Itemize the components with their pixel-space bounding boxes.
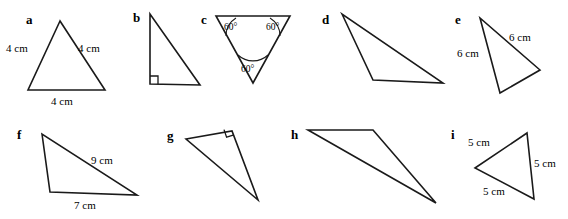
- triangle-shape-e: [480, 18, 540, 93]
- side-length-label-a-1: 4 cm: [6, 42, 28, 54]
- item-letter-h: h: [291, 127, 299, 142]
- right-angle-mark-b: [150, 76, 158, 84]
- side-length-label-f-2: 7 cm: [74, 199, 96, 211]
- item-letter-g: g: [167, 128, 174, 143]
- triangles-worksheet: 4 cm4 cm4 cmab60°60°60°cd6 cm6 cme9 cm7 …: [0, 0, 568, 219]
- triangle-item-h: h: [291, 127, 436, 203]
- triangle-item-e: 6 cm6 cme: [455, 12, 540, 93]
- triangle-shape-h: [308, 130, 436, 203]
- side-length-label-i-1: 5 cm: [468, 136, 490, 148]
- triangle-item-c: 60°60°60°c: [201, 12, 290, 83]
- triangle-item-i: 5 cm5 cm5 cmi: [451, 127, 556, 199]
- angle-label-c-2: 60°: [266, 22, 280, 32]
- triangle-shape-f: [42, 134, 137, 195]
- side-length-label-i-3: 5 cm: [483, 185, 505, 197]
- item-letter-f: f: [17, 127, 22, 142]
- angle-label-c-1: 60°: [224, 22, 238, 32]
- side-length-label-e-2: 6 cm: [509, 31, 531, 43]
- triangles-figure: 4 cm4 cm4 cmab60°60°60°cd6 cm6 cme9 cm7 …: [0, 0, 568, 219]
- angle-arc-c-3: [238, 55, 268, 61]
- triangle-item-b: b: [133, 10, 200, 85]
- triangle-shape-a: [28, 21, 105, 90]
- triangle-shape-d: [342, 14, 443, 83]
- item-letter-c: c: [201, 12, 207, 27]
- triangle-item-a: 4 cm4 cm4 cma: [6, 12, 105, 107]
- item-letter-e: e: [455, 12, 461, 27]
- side-length-label-a-3: 4 cm: [51, 95, 73, 107]
- item-letter-d: d: [322, 12, 330, 27]
- angle-label-c-3: 60°: [241, 64, 255, 74]
- triangle-item-f: 9 cm7 cmf: [17, 127, 137, 211]
- side-length-label-e-1: 6 cm: [457, 47, 479, 59]
- side-length-label-i-2: 5 cm: [534, 157, 556, 169]
- side-length-label-f-1: 9 cm: [91, 154, 113, 166]
- triangle-item-g: g: [167, 128, 258, 200]
- side-length-label-a-2: 4 cm: [78, 42, 100, 54]
- item-letter-a: a: [26, 12, 33, 27]
- triangle-item-d: d: [322, 12, 443, 83]
- triangle-shape-b: [150, 14, 200, 85]
- item-letter-i: i: [451, 127, 455, 142]
- item-letter-b: b: [133, 10, 140, 25]
- triangle-shape-g: [186, 131, 258, 200]
